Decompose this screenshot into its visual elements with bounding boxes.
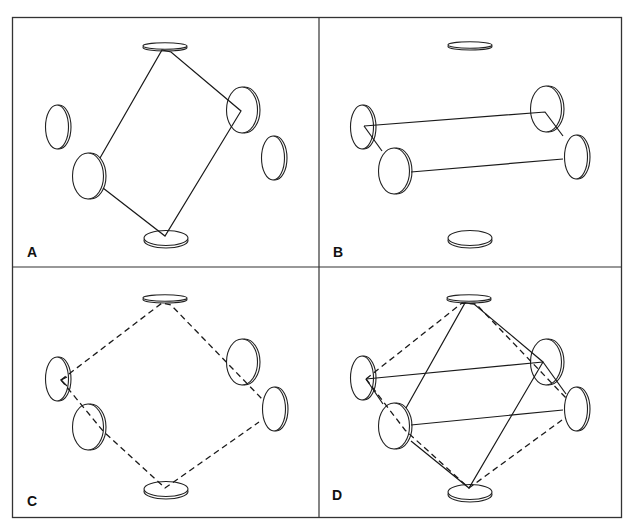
panel-d: D (332, 295, 590, 503)
mirror-top (447, 295, 491, 303)
mirror-bottom (144, 482, 188, 500)
mirror-right-far (565, 135, 591, 179)
mirror-top (143, 43, 187, 51)
mirror-top (143, 295, 187, 303)
beam-segment (411, 159, 563, 172)
mirror-left-far (351, 105, 377, 149)
mirror-left-far (46, 357, 72, 401)
panel-label-a: A (27, 244, 37, 260)
mirror-right-near (227, 339, 261, 385)
mirror-right-near (531, 339, 565, 385)
panel-label-b: B (333, 244, 343, 260)
mirror-top (448, 42, 492, 50)
mirror-right-far (565, 387, 591, 431)
panel-label-c: C (27, 493, 37, 509)
beam-path-solid (100, 50, 241, 236)
mirror-left-near (73, 404, 107, 450)
panel-label-d: D (332, 487, 342, 503)
panel-c: C (27, 295, 288, 509)
mirror-right-near (531, 86, 565, 132)
panel-a: A (27, 43, 287, 260)
panel-b: B (333, 42, 590, 260)
mirror-bottom (144, 231, 188, 249)
mirror-left-near (379, 403, 413, 449)
figure: A B C (0, 0, 634, 525)
mirror-left-near (73, 153, 107, 199)
mirror-right-far (263, 387, 289, 431)
mirror-left-far (46, 105, 72, 149)
beam-segment (411, 410, 563, 425)
beam-segment (366, 362, 543, 379)
mirror-right-far (262, 136, 288, 180)
mirror-left-near (379, 148, 413, 194)
beam-path-solid-rhombus (406, 303, 543, 488)
mirror-bottom (448, 231, 492, 249)
